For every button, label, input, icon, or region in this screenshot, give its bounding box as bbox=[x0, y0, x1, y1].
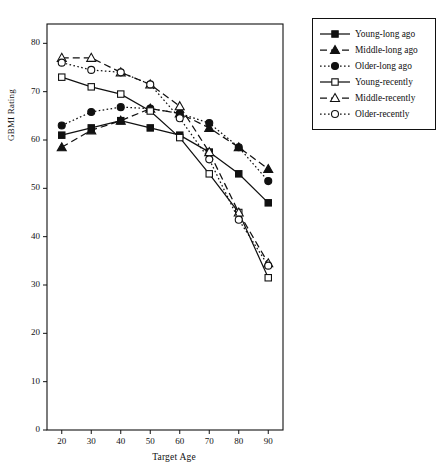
data-point-marker bbox=[332, 79, 338, 85]
data-point-marker bbox=[236, 171, 242, 177]
legend-symbol-icon bbox=[318, 59, 352, 73]
data-point-marker bbox=[176, 115, 183, 122]
data-point-marker bbox=[117, 69, 124, 76]
chart-figure: GBMI Rating Target Age 01020304050607080… bbox=[0, 0, 443, 475]
y-tick-label: 30 bbox=[14, 279, 40, 289]
data-point-marker bbox=[175, 102, 184, 110]
legend-item-3: Young-recently bbox=[313, 74, 435, 90]
legend-symbol-icon bbox=[318, 91, 352, 105]
legend-symbol-icon bbox=[318, 27, 352, 41]
data-point-marker bbox=[264, 165, 273, 173]
data-point-marker bbox=[88, 84, 94, 90]
data-point-marker bbox=[57, 143, 66, 151]
x-tick-label: 40 bbox=[109, 436, 133, 446]
chart-legend: Young-long agoMiddle-long agoOlder-long … bbox=[312, 18, 436, 130]
data-point-marker bbox=[332, 111, 339, 118]
x-axis-title: Target Age bbox=[64, 452, 284, 462]
legend-item-4: Middle-recently bbox=[313, 90, 435, 106]
legend-item-label: Young-long ago bbox=[352, 29, 415, 39]
data-point-marker bbox=[206, 171, 212, 177]
legend-symbol-icon bbox=[318, 43, 352, 57]
data-point-marker bbox=[265, 262, 272, 269]
data-point-marker bbox=[58, 59, 65, 66]
data-point-marker bbox=[265, 275, 271, 281]
legend-item-label: Young-recently bbox=[352, 77, 413, 87]
data-point-marker bbox=[332, 31, 338, 37]
legend-item-0: Young-long ago bbox=[313, 26, 435, 42]
data-point-marker bbox=[147, 108, 153, 114]
legend-item-label: Middle-long ago bbox=[352, 45, 418, 55]
series-line-5 bbox=[62, 63, 269, 266]
y-tick-label: 70 bbox=[14, 86, 40, 96]
legend-item-label: Older-long ago bbox=[352, 61, 412, 71]
data-point-marker bbox=[235, 144, 242, 151]
x-tick-label: 90 bbox=[256, 436, 280, 446]
data-point-marker bbox=[235, 216, 242, 223]
legend-symbol-icon bbox=[318, 75, 352, 89]
data-point-marker bbox=[117, 104, 124, 111]
x-tick-label: 60 bbox=[168, 436, 192, 446]
data-point-marker bbox=[147, 125, 153, 131]
legend-item-2: Older-long ago bbox=[313, 58, 435, 74]
x-tick-label: 70 bbox=[197, 436, 221, 446]
y-tick-label: 50 bbox=[14, 182, 40, 192]
y-tick-label: 60 bbox=[14, 134, 40, 144]
y-tick-label: 10 bbox=[14, 376, 40, 386]
y-tick-label: 40 bbox=[14, 231, 40, 241]
data-point-marker bbox=[59, 132, 65, 138]
data-point-marker bbox=[58, 122, 65, 129]
y-tick-label: 20 bbox=[14, 327, 40, 337]
data-point-marker bbox=[88, 66, 95, 73]
data-point-marker bbox=[147, 81, 154, 88]
y-tick-label: 80 bbox=[14, 37, 40, 47]
x-tick-label: 20 bbox=[50, 436, 74, 446]
x-tick-label: 30 bbox=[79, 436, 103, 446]
data-point-marker bbox=[332, 63, 339, 70]
x-tick-label: 50 bbox=[138, 436, 162, 446]
series-line-1 bbox=[62, 109, 269, 169]
data-point-marker bbox=[206, 120, 213, 127]
y-axis-title: GBMI Rating bbox=[6, 55, 16, 175]
y-tick-label: 0 bbox=[14, 424, 40, 434]
data-point-marker bbox=[118, 91, 124, 97]
x-tick-label: 80 bbox=[227, 436, 251, 446]
legend-item-5: Older-recently bbox=[313, 106, 435, 122]
legend-item-label: Middle-recently bbox=[352, 93, 415, 103]
data-point-marker bbox=[177, 134, 183, 140]
legend-item-1: Middle-long ago bbox=[313, 42, 435, 58]
data-point-marker bbox=[206, 156, 213, 163]
data-point-marker bbox=[59, 74, 65, 80]
legend-symbol-icon bbox=[318, 107, 352, 121]
data-point-marker bbox=[265, 200, 271, 206]
legend-item-label: Older-recently bbox=[352, 109, 409, 119]
data-point-marker bbox=[265, 178, 272, 185]
data-point-marker bbox=[88, 108, 95, 115]
